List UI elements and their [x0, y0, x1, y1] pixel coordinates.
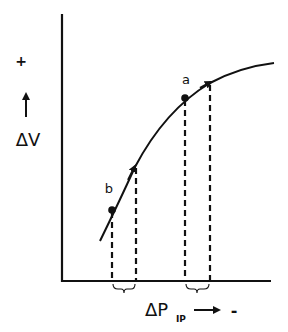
pressure-volume-diagram: + ΔV a b ΔP IP -: [0, 0, 288, 332]
y-axis-plus-sign: +: [15, 53, 27, 69]
brace-a-icon: [186, 284, 209, 293]
x-axis-minus-sign: -: [231, 301, 238, 320]
x-axis-label-subscript: IP: [176, 314, 186, 324]
point-b-label: b: [105, 181, 113, 196]
x-axis-label: ΔP: [145, 299, 168, 320]
y-axis-label: ΔV: [16, 129, 41, 150]
point-a-label: a: [182, 72, 190, 87]
brace-b-icon: [113, 284, 135, 293]
pressure-volume-curve: [100, 63, 274, 241]
curve-arrow-b-icon: [128, 166, 135, 180]
